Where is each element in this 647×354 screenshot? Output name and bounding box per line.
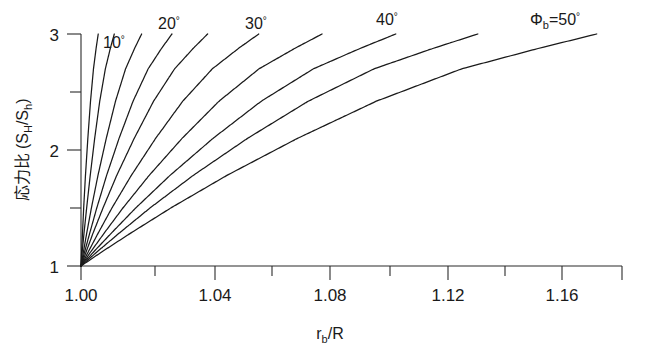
series-label-30deg: 30°: [245, 15, 267, 32]
x-tick-label-1p04: 1.04: [198, 286, 231, 305]
axes-group: [81, 34, 622, 266]
curve-phi-5: [81, 34, 98, 266]
y-tick-labels: 3 2 1: [50, 26, 59, 277]
curve-phi-30: [81, 34, 259, 266]
y-tick-group: [67, 34, 81, 266]
x-tick-label-1p16: 1.16: [545, 286, 578, 305]
curve-phi-50: [81, 34, 597, 266]
x-tick-label-1p12: 1.12: [431, 286, 464, 305]
x-tick-group: [81, 266, 622, 280]
x-tick-labels: 1.00 1.04 1.08 1.12 1.16: [64, 286, 578, 305]
curve-phi-35: [81, 34, 322, 266]
series-annotations: 10° 20° 30° 40° Φb=50°: [103, 11, 580, 51]
y-tick-label-1: 1: [50, 258, 59, 277]
series-label-50deg: Φb=50°: [530, 11, 580, 31]
curve-phi-45: [81, 34, 478, 266]
y-tick-label-3: 3: [50, 26, 59, 45]
x-tick-label-1p00: 1.00: [64, 286, 97, 305]
series-label-20deg: 20°: [158, 15, 180, 32]
curve-phi-20: [81, 34, 172, 266]
series-label-40deg: 40°: [376, 11, 398, 28]
y-tick-label-2: 2: [50, 142, 59, 161]
y-axis-title: 応力比 (SH/Sh): [14, 99, 34, 202]
x-axis-title: rb/R: [316, 325, 343, 345]
x-tick-label-1p08: 1.08: [313, 286, 346, 305]
curves-group: [81, 34, 597, 266]
chart-figure: 3 2 1 1.00 1.04 1.08 1.12 1.16 10° 20° 3…: [0, 0, 647, 354]
curve-phi-10: [81, 34, 114, 266]
series-label-10deg: 10°: [103, 34, 125, 51]
curve-phi-25: [81, 34, 208, 266]
stress-ratio-plot: 3 2 1 1.00 1.04 1.08 1.12 1.16 10° 20° 3…: [0, 0, 647, 354]
